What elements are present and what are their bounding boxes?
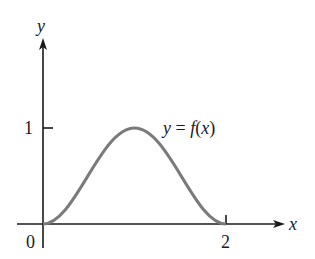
y-axis-label: y bbox=[35, 16, 45, 36]
x-tick-label-2: 2 bbox=[221, 232, 230, 252]
y-tick-label-1: 1 bbox=[24, 118, 33, 138]
curve-f bbox=[43, 128, 226, 224]
function-graph: y x 1 0 2 y = f(x) bbox=[0, 0, 315, 259]
x-axis-label: x bbox=[288, 214, 297, 234]
x-tick-label-0: 0 bbox=[26, 232, 35, 252]
curve-label: y = f(x) bbox=[161, 118, 215, 139]
